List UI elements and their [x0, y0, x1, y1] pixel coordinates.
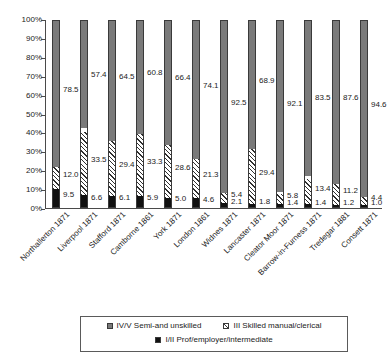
bar-segment-prof-employer — [361, 205, 367, 207]
legend-row-bottom: I/II Prof/employer/intermediate — [81, 336, 347, 344]
y-axis-tick-label: 80% — [4, 54, 42, 62]
bar-segment-prof-employer — [221, 203, 227, 207]
stacked-bar[interactable] — [332, 20, 340, 208]
bar-value-skilled-manual: 4.4 — [371, 194, 382, 202]
bar-value-skilled-manual: 5.4 — [231, 191, 242, 199]
stacked-bar[interactable] — [220, 20, 228, 208]
bar-segment-semi-unskilled — [221, 21, 227, 193]
y-axis-tick-label: 0% — [4, 205, 42, 213]
bar-group[interactable]: 1.04.494.6 — [354, 20, 382, 208]
bar-segment-prof-employer — [81, 195, 87, 207]
bar-group[interactable]: 1.829.468.9 — [242, 20, 270, 208]
bar-segment-semi-unskilled — [81, 21, 87, 128]
bar-segment-prof-employer — [53, 189, 59, 207]
stacked-bar[interactable] — [80, 20, 88, 208]
bar-segment-semi-unskilled — [333, 21, 339, 184]
bar-group[interactable]: 1.413.483.5 — [298, 20, 326, 208]
bar-segment-prof-employer — [305, 204, 311, 207]
x-axis-tick-label: Northallerton 1871 — [18, 210, 71, 263]
stacked-bar[interactable] — [360, 20, 368, 208]
bar-group[interactable]: 5.933.360.8 — [130, 20, 158, 208]
bar-segment-semi-unskilled — [137, 21, 143, 134]
bar-value-prof-employer: 5.9 — [147, 194, 158, 202]
x-axis-labels: Northallerton 1871Liverpool 1871Stafford… — [46, 210, 382, 310]
bar-group[interactable]: 1.45.892.1 — [270, 20, 298, 208]
bar-segment-semi-unskilled — [277, 21, 283, 192]
bar-group[interactable]: 5.028.666.4 — [158, 20, 186, 208]
bar-segment-skilled-manual — [361, 197, 367, 205]
bar-segment-skilled-manual — [53, 167, 59, 189]
bar-segment-skilled-manual — [137, 134, 143, 196]
bar-group[interactable]: 6.633.557.4 — [74, 20, 102, 208]
y-axis-tick-label: 40% — [4, 129, 42, 137]
bar-value-skilled-manual: 5.8 — [287, 192, 298, 200]
stacked-bar[interactable] — [52, 20, 60, 208]
y-axis: 100%90%80%70%60%50%40%30%20%10%0% — [0, 20, 42, 209]
bar-value-prof-employer: 4.6 — [203, 196, 214, 204]
bar-value-prof-employer: 5.0 — [175, 195, 186, 203]
legend-swatch-black-icon — [155, 337, 161, 343]
legend-swatch-grey-icon — [107, 323, 113, 329]
bar-segment-skilled-manual — [305, 179, 311, 204]
stacked-bar[interactable] — [276, 20, 284, 208]
bar-segment-semi-unskilled — [361, 21, 367, 197]
bar-segment-prof-employer — [277, 204, 283, 207]
bar-segment-prof-employer — [137, 196, 143, 207]
y-axis-tick-label: 30% — [4, 148, 42, 156]
legend-item-skilled-manual: III Skilled manual/clerical — [223, 322, 321, 330]
bar-segment-skilled-manual — [193, 159, 199, 199]
x-axis-line — [45, 208, 382, 209]
bar-value-prof-employer: 2.1 — [231, 198, 242, 206]
chart-legend: IV/V Semi-and unskilled III Skilled manu… — [80, 316, 348, 352]
legend-label-semi-unskilled: IV/V Semi-and unskilled — [117, 322, 202, 330]
bar-segment-prof-employer — [249, 204, 255, 207]
bar-group[interactable]: 2.15.492.5 — [214, 20, 242, 208]
legend-swatch-hatch-icon — [223, 323, 229, 329]
bar-value-prof-employer: 6.1 — [119, 194, 130, 202]
bar-group[interactable]: 6.129.464.5 — [102, 20, 130, 208]
y-axis-tick-label: 50% — [4, 111, 42, 119]
bar-segment-prof-employer — [333, 205, 339, 207]
bar-value-semi-unskilled: 94.6 — [371, 101, 387, 109]
stacked-bar[interactable] — [164, 20, 172, 208]
bar-group[interactable]: 1.211.287.6 — [326, 20, 354, 208]
bar-value-prof-employer: 1.8 — [259, 198, 270, 206]
bar-segment-skilled-manual — [277, 194, 283, 205]
bar-segment-skilled-manual — [165, 145, 171, 198]
stacked-bar[interactable] — [304, 20, 312, 208]
stacked-bar[interactable] — [192, 20, 200, 208]
bar-group[interactable]: 9.512.078.5 — [46, 20, 74, 208]
bar-segment-semi-unskilled — [109, 21, 115, 141]
bar-segment-skilled-manual — [109, 141, 115, 196]
legend-label-skilled-manual: III Skilled manual/clerical — [233, 322, 321, 330]
legend-item-semi-unskilled: IV/V Semi-and unskilled — [107, 322, 202, 330]
x-axis-tick-label: Cleator Moor 1871 — [242, 210, 295, 263]
legend-item-prof-employer: I/II Prof/employer/intermediate — [155, 336, 272, 344]
plot-area: 9.512.078.56.633.557.46.129.464.55.933.3… — [46, 20, 382, 208]
bar-segment-semi-unskilled — [193, 21, 199, 159]
y-axis-tick-label: 100% — [4, 16, 42, 24]
bar-segment-skilled-manual — [81, 132, 87, 194]
stacked-bar[interactable] — [108, 20, 116, 208]
bar-segment-skilled-manual — [221, 193, 227, 203]
stacked-bar[interactable] — [136, 20, 144, 208]
bar-segment-semi-unskilled — [53, 21, 59, 167]
bar-group[interactable]: 4.621.374.1 — [186, 20, 214, 208]
y-axis-tick-label: 90% — [4, 35, 42, 43]
bar-segment-skilled-manual — [333, 184, 339, 205]
bar-segment-semi-unskilled — [305, 21, 311, 176]
bar-value-prof-employer: 1.2 — [343, 199, 354, 207]
y-axis-tick-label: 70% — [4, 73, 42, 81]
bar-segment-semi-unskilled — [165, 21, 171, 145]
y-axis-tick-mark — [41, 209, 45, 210]
y-axis-tick-label: 20% — [4, 167, 42, 175]
bar-value-prof-employer: 9.5 — [63, 191, 74, 199]
bar-segment-semi-unskilled — [249, 21, 255, 149]
bar-segment-skilled-manual — [249, 149, 255, 204]
y-axis-tick-label: 60% — [4, 92, 42, 100]
stacked-bar-chart: 100%90%80%70%60%50%40%30%20%10%0% 9.512.… — [0, 0, 388, 363]
stacked-bar[interactable] — [248, 20, 256, 208]
bar-value-prof-employer: 1.4 — [315, 199, 326, 207]
y-axis-tick-label: 10% — [4, 186, 42, 194]
bar-segment-prof-employer — [193, 198, 199, 207]
